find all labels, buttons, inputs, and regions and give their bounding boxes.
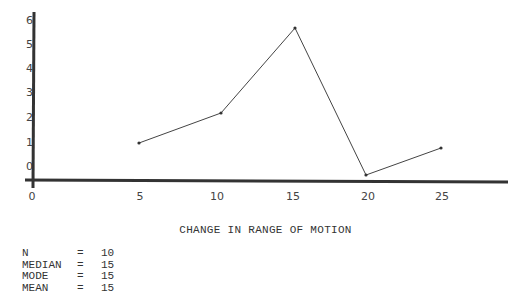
data-point	[293, 26, 296, 29]
stat-equals: =	[77, 271, 101, 283]
y-tick-label: 4	[26, 62, 33, 75]
stat-label: MODE	[22, 271, 77, 283]
y-tick-label: 3	[26, 86, 33, 99]
x-axis	[25, 180, 508, 182]
data-line	[139, 28, 441, 175]
x-tick-label: 15	[286, 190, 300, 203]
x-tick-label: 25	[435, 190, 449, 203]
y-tick-label: 5	[26, 38, 33, 51]
stat-value: 15	[101, 270, 114, 282]
stat-equals: =	[77, 248, 101, 260]
data-point	[137, 141, 140, 144]
x-tick-label: 5	[137, 190, 144, 203]
stat-value: 15	[101, 259, 114, 271]
line-chart: 6543210 0510152025	[0, 0, 531, 220]
x-tick-label: 20	[361, 190, 375, 203]
data-point	[364, 173, 367, 176]
stat-value: 10	[101, 247, 114, 259]
y-tick-label: 6	[26, 14, 33, 27]
x-axis-tick-labels: 0510152025	[29, 190, 450, 203]
data-point	[439, 146, 442, 149]
stat-row: MEAN=15	[22, 283, 114, 295]
x-tick-label: 0	[29, 190, 36, 203]
data-points	[137, 26, 442, 176]
stat-label: N	[22, 248, 77, 260]
x-axis-title: CHANGE IN RANGE OF MOTION	[0, 224, 531, 236]
summary-statistics: N=10MEDIAN=15MODE=15MEAN=15	[22, 248, 114, 294]
stat-value: 15	[101, 282, 114, 294]
stat-equals: =	[77, 283, 101, 295]
x-tick-label: 10	[210, 190, 224, 203]
stat-label: MEAN	[22, 283, 77, 295]
data-point	[219, 111, 222, 114]
y-axis	[33, 12, 34, 188]
